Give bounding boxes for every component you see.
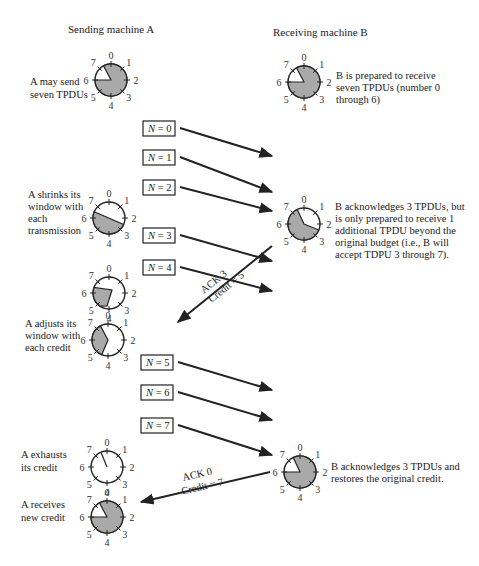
sender-note-4: A exhausts its credit <box>21 449 67 473</box>
dial-label-5: 5 <box>280 484 285 495</box>
receiver-note-2: B acknowledges 3 TPDUs, but is only prep… <box>335 201 465 261</box>
dial-label-3: 3 <box>122 479 127 490</box>
dial-label-1: 1 <box>124 195 129 206</box>
dial-label-6: 6 <box>277 219 282 230</box>
dial-label-7: 7 <box>284 59 289 70</box>
dial-label-2: 2 <box>130 462 135 473</box>
dial-b-ack3: 01234567 <box>277 194 332 255</box>
dial-label-0: 0 <box>302 194 307 205</box>
receiver-note-3: B acknowledges 3 TPDUs and restores the … <box>331 461 460 484</box>
dial-label-4: 4 <box>109 100 114 111</box>
svg-text:new credit: new credit <box>21 512 65 523</box>
svg-text:original budget (i.e., B will: original budget (i.e., B will <box>335 237 449 249</box>
svg-text:restores the original credit.: restores the original credit. <box>331 473 444 484</box>
dial-label-2: 2 <box>132 213 137 224</box>
dial-label-0: 0 <box>109 50 114 61</box>
dial-label-0: 0 <box>106 310 111 321</box>
dial-label-6: 6 <box>84 75 89 86</box>
dial-label-3: 3 <box>124 230 129 241</box>
dial-label-7: 7 <box>89 270 94 281</box>
dial-label-3: 3 <box>126 92 131 103</box>
dial-label-0: 0 <box>107 188 112 199</box>
svg-text:transmission: transmission <box>28 225 82 236</box>
dial-label-3: 3 <box>319 94 324 105</box>
dial-label-2: 2 <box>132 288 137 299</box>
dial-label-3: 3 <box>124 305 129 316</box>
receiver-header: Receiving machine B <box>273 26 368 38</box>
dial-label-2: 2 <box>327 219 332 230</box>
dial-label-5: 5 <box>87 529 92 540</box>
sender-note-2: A shrinks its window with each transmiss… <box>28 189 84 236</box>
dial-label-1: 1 <box>123 317 128 328</box>
svg-text:N = 1: N = 1 <box>147 152 171 163</box>
credit-flow-control-diagram: Sending machine A Receiving machine B A … <box>0 0 479 566</box>
dial-label-4: 4 <box>107 238 112 249</box>
dial-label-6: 6 <box>81 335 86 346</box>
svg-text:its credit: its credit <box>21 462 58 473</box>
dial-label-2: 2 <box>134 75 139 86</box>
svg-text:N = 7: N = 7 <box>145 420 169 431</box>
dial-label-7: 7 <box>87 494 92 505</box>
dial-label-0: 0 <box>298 442 303 453</box>
svg-text:B is prepared to receive: B is prepared to receive <box>336 70 436 81</box>
dial-label-5: 5 <box>88 352 93 363</box>
dial-label-3: 3 <box>315 484 320 495</box>
svg-text:A may send: A may send <box>30 76 80 87</box>
dial-label-0: 0 <box>107 263 112 274</box>
message-arrow-n6 <box>178 392 272 420</box>
svg-text:additional TPDU beyond the: additional TPDU beyond the <box>335 225 456 236</box>
dial-label-7: 7 <box>91 57 96 68</box>
dial-label-1: 1 <box>315 449 320 460</box>
dial-label-1: 1 <box>122 444 127 455</box>
dial-b-initial: 01234567 <box>277 52 332 113</box>
dial-label-2: 2 <box>131 335 136 346</box>
svg-text:seven TPDUs (number 0: seven TPDUs (number 0 <box>336 82 440 94</box>
dial-label-1: 1 <box>319 201 324 212</box>
svg-text:A exhausts: A exhausts <box>21 449 67 460</box>
dial-label-1: 1 <box>319 59 324 70</box>
message-arrow-n1 <box>180 157 272 192</box>
message-box-n1: N = 1 <box>143 150 175 165</box>
message-arrow-n2 <box>180 187 272 211</box>
dial-label-3: 3 <box>319 236 324 247</box>
svg-text:each: each <box>28 213 48 224</box>
svg-text:A shrinks its: A shrinks its <box>28 189 81 200</box>
dial-a-initial: 01234567 <box>84 50 139 111</box>
dial-a-shrinking: 01234567 <box>82 188 137 249</box>
svg-text:each credit: each credit <box>25 342 71 353</box>
svg-text:B acknowledges 3 TPDUs and: B acknowledges 3 TPDUs and <box>331 461 460 472</box>
dial-a-new-credit: 01234567 <box>80 487 135 548</box>
dial-label-7: 7 <box>284 201 289 212</box>
ack-arrow-1: ACK 3 Credit = 5 <box>178 246 272 322</box>
dial-b-ack0: 01234567 <box>273 442 328 503</box>
dial-label-0: 0 <box>105 437 110 448</box>
message-box-n6: N = 6 <box>141 385 173 400</box>
message-box-n3: N = 3 <box>143 228 175 243</box>
dial-label-6: 6 <box>82 288 87 299</box>
message-box-n0: N = 0 <box>143 121 175 136</box>
dial-label-3: 3 <box>122 529 127 540</box>
message-box-n7: N = 7 <box>141 418 173 433</box>
dial-label-6: 6 <box>80 512 85 523</box>
svg-text:is only prepared to receive 1: is only prepared to receive 1 <box>335 213 454 224</box>
dial-label-6: 6 <box>80 462 85 473</box>
svg-text:window with: window with <box>25 330 81 341</box>
dial-label-7: 7 <box>280 449 285 460</box>
sender-note-1: A may send seven TPDUs <box>30 76 88 100</box>
sender-header: Sending machine A <box>68 23 154 35</box>
svg-text:N = 0: N = 0 <box>147 123 171 134</box>
receiver-note-1: B is prepared to receive seven TPDUs (nu… <box>336 70 440 106</box>
ack-arrow-2: ACK 0 Credit = 7 <box>141 464 270 502</box>
dial-label-2: 2 <box>327 77 332 88</box>
dial-label-0: 0 <box>105 487 110 498</box>
dial-label-1: 1 <box>122 494 127 505</box>
dial-label-5: 5 <box>284 94 289 105</box>
dial-label-5: 5 <box>89 305 94 316</box>
svg-text:N = 5: N = 5 <box>145 357 169 368</box>
dial-label-7: 7 <box>88 317 93 328</box>
message-arrow-n0 <box>180 128 272 156</box>
message-arrow-n7 <box>178 425 272 455</box>
dial-label-6: 6 <box>277 77 282 88</box>
message-arrow-n5 <box>178 362 272 390</box>
svg-text:B acknowledges 3 TPDUs, but: B acknowledges 3 TPDUs, but <box>335 201 465 212</box>
